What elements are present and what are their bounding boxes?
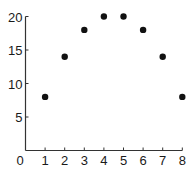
- x-tick-label: 4: [100, 153, 107, 168]
- x-tick-label: 3: [81, 153, 88, 168]
- x-tick-label: 5: [120, 153, 127, 168]
- data-point: [140, 27, 146, 33]
- x-tick-label: 8: [179, 153, 186, 168]
- data-point: [61, 54, 67, 60]
- data-point: [42, 94, 48, 100]
- x-tick-label: 6: [139, 153, 146, 168]
- data-point: [81, 27, 87, 33]
- scatter-chart: 5101520123456780: [0, 0, 195, 178]
- data-point: [101, 13, 107, 19]
- y-tick-label: 10: [8, 77, 22, 92]
- origin-label: 0: [16, 153, 23, 168]
- x-tick-label: 1: [41, 153, 48, 168]
- y-tick-label: 20: [8, 10, 22, 25]
- y-tick-label: 15: [8, 43, 22, 58]
- tick-labels: 5101520123456780: [8, 10, 186, 169]
- data-point: [120, 13, 126, 19]
- data-points: [42, 13, 186, 100]
- x-tick-label: 2: [61, 153, 68, 168]
- y-tick-label: 5: [15, 110, 22, 125]
- data-point: [160, 54, 166, 60]
- data-point: [179, 94, 185, 100]
- x-tick-label: 7: [159, 153, 166, 168]
- axes: [26, 17, 183, 151]
